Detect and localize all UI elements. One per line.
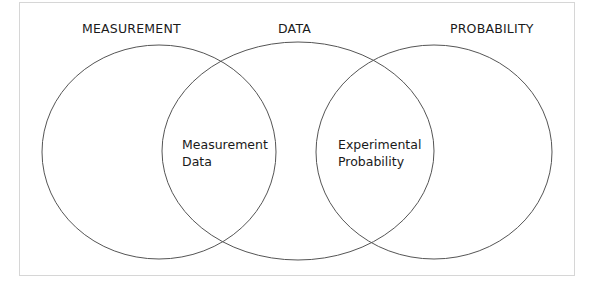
venn-diagram xyxy=(0,0,598,283)
label-data: DATA xyxy=(278,21,311,36)
intersection-measurement-data-line-2: Data xyxy=(182,153,268,170)
intersection-measurement-data-line-1: Measurement xyxy=(182,136,268,153)
intersection-data-probability-line-2: Probability xyxy=(338,153,421,170)
intersection-measurement-data: Measurement Data xyxy=(182,136,268,170)
intersection-data-probability: Experimental Probability xyxy=(338,136,421,170)
intersection-data-probability-line-1: Experimental xyxy=(338,136,421,153)
label-probability: PROBABILITY xyxy=(450,21,534,36)
label-measurement: MEASUREMENT xyxy=(82,21,181,36)
